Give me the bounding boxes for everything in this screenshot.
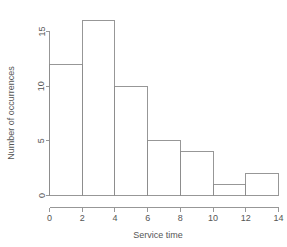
y-tick-label: 0: [37, 193, 47, 198]
y-tick-label: 5: [37, 138, 47, 143]
y-tick-labels: 051015: [37, 26, 47, 198]
x-axis: [50, 208, 279, 212]
histogram-bar: [82, 21, 115, 196]
histogram-bar: [148, 141, 181, 196]
y-tick-label: 10: [37, 81, 47, 91]
x-tick-label: 12: [241, 213, 251, 223]
x-tick-label: 6: [145, 213, 150, 223]
x-tick-label: 8: [178, 213, 183, 223]
x-tick-label: 10: [208, 213, 218, 223]
bars-group: [50, 21, 279, 196]
x-tick-label: 0: [47, 213, 52, 223]
x-tick-label: 2: [80, 213, 85, 223]
x-tick-label: 4: [112, 213, 117, 223]
histogram-bar: [180, 152, 213, 196]
histogram-bar: [50, 64, 83, 195]
y-axis-title: Number of occurrences: [6, 66, 16, 160]
y-axis: [46, 32, 50, 196]
histogram-bar: [213, 185, 246, 196]
x-tick-label: 14: [273, 213, 283, 223]
x-tick-labels: 02468101214: [47, 213, 284, 223]
histogram-bar: [115, 86, 148, 195]
plot-area: 02468101214 051015 Service time Number o…: [0, 0, 287, 247]
x-axis-title: Service time: [133, 230, 183, 240]
histogram-bar: [246, 174, 279, 196]
histogram-chart: 02468101214 051015 Service time Number o…: [0, 0, 287, 247]
y-tick-label: 15: [37, 26, 47, 36]
